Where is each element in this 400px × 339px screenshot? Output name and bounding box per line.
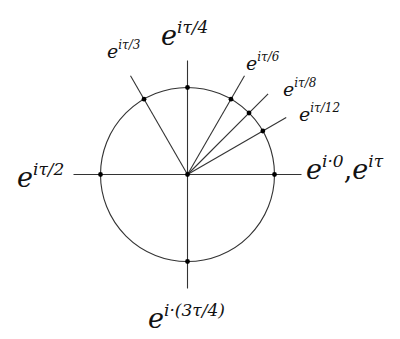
label-tau-over-2: eiτ/2 [17,164,64,191]
ray-120deg [131,76,188,175]
point-90deg [185,85,190,90]
point-120deg [142,97,147,102]
ray-45deg [188,94,269,175]
ray-60deg [188,76,245,175]
point-45deg [247,111,252,116]
point-0deg [272,172,277,177]
point-60deg [229,97,234,102]
label-tau-over-6: eiτ/6 [246,54,279,73]
label-zero-and-tau: ei·0,eiτ [306,156,383,183]
point-30deg [260,129,265,134]
label-tau-over-8: eiτ/8 [283,80,316,99]
ray-30deg [188,118,287,175]
label-tau-over-3: eiτ/3 [107,42,140,61]
center-point [185,172,190,177]
label-tau-over-4: eiτ/4 [161,22,208,49]
point-180deg [98,172,103,177]
label-three-tau-over-4: ei·(3τ/4) [148,305,225,332]
point-270deg [185,259,190,264]
label-tau-over-12: eiτ/12 [299,105,340,124]
